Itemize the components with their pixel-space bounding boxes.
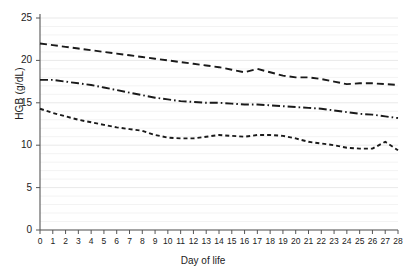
y-tick-label: 0 <box>8 225 32 235</box>
hgb-line-chart <box>0 0 406 276</box>
series-upper-percentile <box>40 43 398 85</box>
y-tick-label: 25 <box>8 13 32 23</box>
x-tick-label: 28 <box>390 236 406 246</box>
x-axis-label: Day of life <box>0 255 406 266</box>
y-axis-label: HGB (g/dL) <box>14 39 25 149</box>
chart-container: 0510152025 01234567891011121314151617181… <box>0 0 406 276</box>
y-tick-label: 5 <box>8 183 32 193</box>
series-lower-percentile <box>40 109 398 151</box>
